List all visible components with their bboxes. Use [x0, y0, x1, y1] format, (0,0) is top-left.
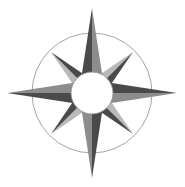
compass-rose-figure	[0, 0, 185, 187]
compass-hub	[71, 72, 113, 114]
compass-hub-layer	[71, 72, 113, 114]
compass-rose-svg	[0, 0, 185, 187]
